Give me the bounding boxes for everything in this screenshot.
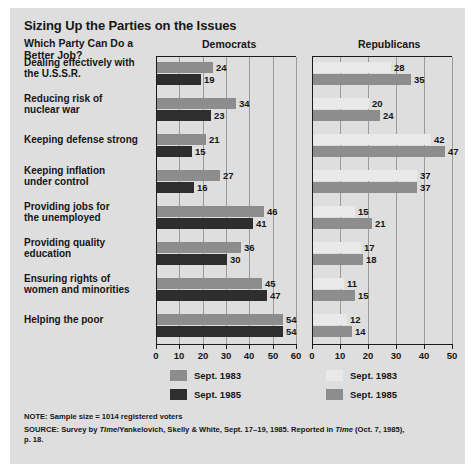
bar [157, 170, 220, 181]
bar-value-label: 41 [256, 218, 267, 229]
axis-tick-label: 30 [221, 350, 232, 361]
bar [157, 98, 236, 109]
axis-tick-label: 0 [153, 350, 158, 361]
bar-value-label: 15 [358, 206, 369, 217]
category-label-line: Helping the poor [24, 314, 103, 325]
bar-value-label: 19 [204, 74, 215, 85]
axis-tick [368, 344, 369, 349]
category-label: Keeping inflationunder control [24, 165, 156, 187]
bar [313, 206, 355, 217]
axis-tick [273, 344, 274, 349]
category-label: Dealing effectively withthe U.S.S.R. [24, 57, 156, 79]
axis-tick [424, 344, 425, 349]
bar-value-label: 36 [244, 242, 255, 253]
panel-title-democrats: Democrats [202, 38, 256, 50]
legend-label: Sept. 1985 [194, 389, 241, 400]
legend-label: Sept. 1983 [350, 370, 397, 381]
axis-tick [452, 344, 453, 349]
bar [313, 98, 369, 109]
category-label-line: the U.S.S.R. [24, 68, 81, 79]
bar [313, 278, 344, 289]
note-source-line-1: SOURCE: Survey by Time/Yankelovich, Skel… [24, 425, 404, 435]
bar [157, 182, 194, 193]
bar-value-label: 45 [265, 278, 276, 289]
category-label-line: women and minorities [24, 284, 130, 295]
bar [157, 146, 192, 157]
category-label-line: nuclear war [24, 104, 80, 115]
category-label-line: education [24, 248, 71, 259]
bar-value-label: 21 [209, 134, 220, 145]
bar [313, 326, 352, 337]
bar-value-label: 37 [420, 170, 431, 181]
bar [313, 254, 363, 265]
axis-tick-label: 40 [244, 350, 255, 361]
category-label-line: Providing jobs for [24, 201, 110, 212]
axis-tick-label: 40 [419, 350, 430, 361]
bar [313, 242, 361, 253]
gridline [424, 57, 425, 344]
axis-tick [396, 344, 397, 349]
bar-value-label: 47 [270, 290, 281, 301]
page-title: Sizing Up the Parties on the Issues [24, 18, 237, 33]
bar [157, 278, 262, 289]
plot-democrats: 0102030405060243421274636455419231516413… [156, 56, 296, 345]
axis-tick [203, 344, 204, 349]
bar [313, 110, 380, 121]
source-suffix: (Oct. 7, 1985), [353, 425, 405, 434]
axis-tick [156, 344, 157, 349]
bar-value-label: 15 [195, 146, 206, 157]
axis-tick-label: 60 [291, 350, 302, 361]
bar [157, 326, 283, 337]
bar [157, 206, 264, 217]
bar-value-label: 30 [230, 254, 241, 265]
bar [157, 290, 267, 301]
bar-value-label: 20 [372, 98, 383, 109]
category-label: Helping the poor [24, 314, 156, 325]
bar-value-label: 16 [197, 182, 208, 193]
bar-value-label: 42 [434, 134, 445, 145]
category-label: Providing qualityeducation [24, 237, 156, 259]
legend-swatch-icon [170, 370, 187, 381]
axis-tick [296, 344, 297, 349]
bar-value-label: 14 [355, 326, 366, 337]
bar [313, 62, 391, 73]
category-label-line: Ensuring rights of [24, 273, 110, 284]
axis-tick [226, 344, 227, 349]
bar-value-label: 23 [214, 110, 225, 121]
bar-value-label: 24 [383, 110, 394, 121]
bar-value-label: 15 [358, 290, 369, 301]
note-sample-size: NOTE: Sample size = 1014 registered vote… [24, 412, 183, 422]
category-label-line: under control [24, 176, 88, 187]
bar [157, 134, 206, 145]
axis-tick [249, 344, 250, 349]
gridline [396, 57, 397, 344]
gridline [452, 57, 453, 344]
axis-tick-label: 0 [309, 350, 314, 361]
axis-tick-label: 20 [363, 350, 374, 361]
subtitle-line-1: Which Party Can Do a [24, 37, 133, 49]
bar [313, 74, 411, 85]
bar [157, 242, 241, 253]
category-label-line: Providing quality [24, 237, 105, 248]
bar [313, 314, 347, 325]
bar [157, 62, 213, 73]
bar [157, 110, 211, 121]
category-label-line: Keeping inflation [24, 165, 105, 176]
panel-title-republicans: Republicans [358, 38, 420, 50]
category-label: Keeping defense strong [24, 134, 156, 145]
axis-tick [312, 344, 313, 349]
bar-value-label: 54 [286, 314, 297, 325]
axis-bottom-line [312, 344, 452, 345]
bar [313, 134, 431, 145]
bar [313, 182, 417, 193]
bar [157, 74, 201, 85]
bar-value-label: 11 [347, 278, 357, 289]
bar [313, 290, 355, 301]
bar-value-label: 17 [364, 242, 375, 253]
source-time-1: Time [100, 425, 118, 434]
bar-value-label: 35 [414, 74, 425, 85]
category-label-line: Reducing risk of [24, 93, 102, 104]
axis-tick-label: 20 [198, 350, 209, 361]
bar-value-label: 28 [394, 62, 405, 73]
bar-value-label: 27 [223, 170, 234, 181]
